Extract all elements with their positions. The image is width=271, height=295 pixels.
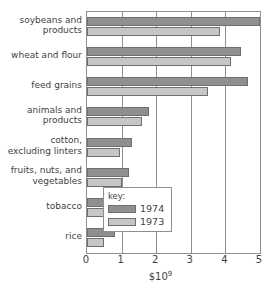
category-label-line: products xyxy=(0,25,82,36)
category-label: fruits, nuts, andvegetables xyxy=(0,165,82,186)
category-label: cotton,excluding linters xyxy=(0,135,82,156)
bar-1974 xyxy=(87,47,241,56)
bar-group xyxy=(87,76,260,98)
category-label-line: rice xyxy=(0,231,82,242)
bar-group xyxy=(87,106,260,128)
legend-swatch-1974 xyxy=(108,205,136,213)
category-label-line: soybeans and xyxy=(0,15,82,26)
legend: key: 19741973 xyxy=(103,187,172,232)
category-label: soybeans andproducts xyxy=(0,15,82,36)
category-label-line: products xyxy=(0,115,82,126)
bar-group xyxy=(87,137,260,159)
category-label: animals andproducts xyxy=(0,105,82,126)
category-label: wheat and flour xyxy=(0,50,82,61)
x-axis-title-base: $10 xyxy=(149,271,168,282)
bar-group xyxy=(87,16,260,38)
bar-1973 xyxy=(87,87,208,96)
category-label-line: animals and xyxy=(0,105,82,116)
category-label: rice xyxy=(0,231,82,242)
legend-label-1974: 1974 xyxy=(140,203,164,214)
category-label-line: tobacco xyxy=(0,201,82,212)
x-axis-title-exponent: 9 xyxy=(168,270,172,278)
bar-1973 xyxy=(87,27,220,36)
x-axis-tick-label: 5 xyxy=(250,254,268,265)
category-label-line: feed grains xyxy=(0,80,82,91)
x-axis-title: $109 xyxy=(0,270,271,282)
legend-entry: 1973 xyxy=(108,216,167,227)
category-label: feed grains xyxy=(0,80,82,91)
bar-1974 xyxy=(87,77,248,86)
bar-1974 xyxy=(87,138,132,147)
bar-1973 xyxy=(87,57,231,66)
legend-entry-group: 19741973 xyxy=(108,203,167,227)
x-axis-tick-label: 1 xyxy=(112,254,130,265)
bar-1974 xyxy=(87,17,260,26)
category-label-line: fruits, nuts, and xyxy=(0,165,82,176)
x-axis-tick-label: 4 xyxy=(215,254,233,265)
category-label: tobacco xyxy=(0,201,82,212)
bar-group xyxy=(87,167,260,189)
bar-chart: soybeans andproductswheat and flourfeed … xyxy=(0,0,271,295)
category-label-line: vegetables xyxy=(0,176,82,187)
category-label-line: excluding linters xyxy=(0,146,82,157)
bar-1973 xyxy=(87,238,104,247)
category-label-line: wheat and flour xyxy=(0,50,82,61)
x-axis-tick-group: 012345 xyxy=(86,254,259,268)
x-axis-tick-label: 2 xyxy=(146,254,164,265)
legend-entry: 1974 xyxy=(108,203,167,214)
bar-1974 xyxy=(87,168,129,177)
x-axis-tick-label: 0 xyxy=(77,254,95,265)
legend-swatch-1973 xyxy=(108,218,136,226)
bar-1973 xyxy=(87,117,142,126)
legend-label-1973: 1973 xyxy=(140,216,164,227)
legend-title: key: xyxy=(108,191,167,201)
bar-1973 xyxy=(87,178,122,187)
category-label-line: cotton, xyxy=(0,135,82,146)
bar-1973 xyxy=(87,148,120,157)
x-axis-tick-label: 3 xyxy=(181,254,199,265)
bar-group xyxy=(87,46,260,68)
bar-1974 xyxy=(87,107,149,116)
